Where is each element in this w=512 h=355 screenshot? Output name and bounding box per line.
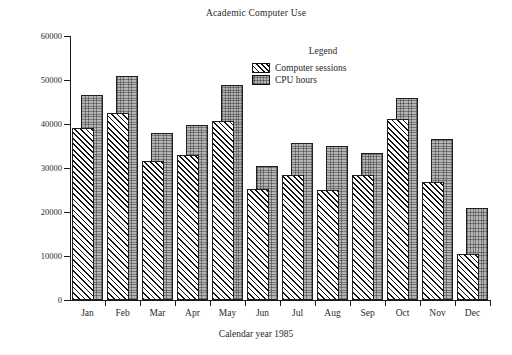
- bar-computer-sessions: [282, 175, 304, 300]
- bar-computer-sessions: [387, 119, 409, 300]
- x-axis-title: Calendar year 1985: [0, 329, 512, 339]
- x-axis-tick: [245, 300, 246, 306]
- x-axis-tick: [280, 300, 281, 306]
- y-axis-tick: [64, 212, 70, 213]
- bar-computer-sessions: [247, 189, 269, 300]
- x-axis-tick-label: Nov: [429, 308, 445, 318]
- x-axis-tick-label: May: [219, 308, 236, 318]
- x-axis-tick-label: Oct: [396, 308, 410, 318]
- legend-item-cpu-hours: CPU hours: [252, 75, 412, 85]
- x-axis-tick-label: Jul: [292, 308, 303, 318]
- y-axis-tick: [64, 36, 70, 37]
- x-axis-tick-label: Feb: [115, 308, 129, 318]
- y-axis-tick-label: 30000: [18, 163, 62, 173]
- x-axis-tick-label: Jun: [256, 308, 269, 318]
- bar-computer-sessions: [72, 128, 94, 300]
- x-axis-tick-label: Dec: [465, 308, 480, 318]
- y-axis-tick-label: 40000: [18, 119, 62, 129]
- bar-computer-sessions: [212, 121, 234, 300]
- legend-title: Legend: [234, 46, 412, 56]
- bar-computer-sessions: [142, 161, 164, 300]
- y-axis-tick-label: 10000: [18, 251, 62, 261]
- y-axis-line: [70, 36, 71, 301]
- y-axis-tick-label: 60000: [18, 31, 62, 41]
- bar-computer-sessions: [107, 113, 129, 300]
- y-axis-tick: [64, 168, 70, 169]
- x-axis-tick: [105, 300, 106, 306]
- y-axis-tick-label: 20000: [18, 207, 62, 217]
- bar-computer-sessions: [317, 190, 339, 300]
- bar-computer-sessions: [177, 155, 199, 300]
- y-axis-tick: [64, 80, 70, 81]
- y-axis-tick: [64, 300, 70, 301]
- x-axis-tick: [140, 300, 141, 306]
- legend-label-cpu-hours: CPU hours: [275, 75, 317, 85]
- legend: Legend Computer sessions CPU hours: [252, 46, 412, 87]
- bar-computer-sessions: [457, 254, 479, 300]
- x-axis-tick: [455, 300, 456, 306]
- x-axis-tick: [420, 300, 421, 306]
- x-axis-tick-label: Mar: [150, 308, 166, 318]
- x-axis-tick-label: Aug: [324, 308, 340, 318]
- x-axis-tick: [490, 300, 491, 306]
- x-axis-tick: [350, 300, 351, 306]
- x-axis-tick: [210, 300, 211, 306]
- legend-item-computer-sessions: Computer sessions: [252, 63, 412, 73]
- x-axis-tick-label: Sep: [360, 308, 374, 318]
- x-axis-tick: [315, 300, 316, 306]
- y-axis-tick: [64, 124, 70, 125]
- legend-swatch-hatch-icon: [252, 63, 270, 73]
- y-axis-tick-label: 0: [18, 295, 62, 305]
- y-axis-tick: [64, 256, 70, 257]
- x-axis-tick-label: Jan: [81, 308, 94, 318]
- y-axis-tick-label: 50000: [18, 75, 62, 85]
- x-axis-tick: [385, 300, 386, 306]
- bar-computer-sessions: [352, 175, 374, 300]
- chart-container: Academic Computer Use 010000200003000040…: [0, 0, 512, 355]
- x-axis-tick-label: Apr: [185, 308, 200, 318]
- x-axis-tick: [175, 300, 176, 306]
- legend-swatch-stipple-icon: [252, 75, 270, 85]
- legend-label-computer-sessions: Computer sessions: [275, 63, 347, 73]
- bar-computer-sessions: [422, 182, 444, 300]
